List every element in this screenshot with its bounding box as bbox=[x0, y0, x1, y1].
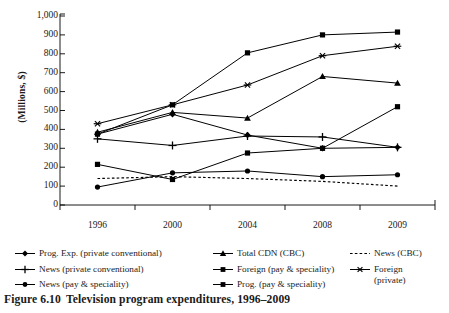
legend-entry[interactable]: News (pay & speciality) bbox=[14, 279, 129, 293]
series-line bbox=[94, 132, 402, 151]
x-tick-label: 2004 bbox=[218, 220, 278, 230]
legend-swatch-icon bbox=[14, 279, 36, 290]
legend-swatch-icon bbox=[349, 264, 371, 275]
legend-label: Prog. (pay & speciality) bbox=[237, 279, 325, 290]
chart-svg bbox=[0, 0, 449, 240]
legend-swatch-icon bbox=[14, 248, 36, 259]
chart-plot-area: (Millions, $) 1,000900800700600500400300… bbox=[0, 0, 449, 240]
legend-entry[interactable]: News (private conventional) bbox=[14, 264, 144, 278]
legend-label: Foreign (private) bbox=[374, 264, 406, 286]
legend-label: Total CDN (CBC) bbox=[237, 248, 304, 259]
series-line bbox=[94, 44, 402, 127]
legend-entry[interactable]: Total CDN (CBC) bbox=[212, 248, 304, 262]
legend-entry[interactable]: Foreign (private) bbox=[349, 264, 406, 278]
legend-label: Prog. Exp. (private conventional) bbox=[39, 248, 162, 259]
x-tick-label: 2009 bbox=[368, 220, 428, 230]
legend-marker-icon bbox=[14, 264, 36, 275]
x-tick-label: 2008 bbox=[293, 220, 353, 230]
legend-entry[interactable]: Foreign (pay & speciality) bbox=[212, 264, 334, 278]
x-tick-label: 2000 bbox=[143, 220, 203, 230]
chart-legend: Prog. Exp. (private conventional)News (p… bbox=[14, 248, 439, 294]
legend-marker-icon bbox=[349, 264, 371, 275]
series-line bbox=[94, 73, 401, 135]
x-axis-tick-labels: 19962000200420082009 bbox=[0, 214, 449, 234]
figure-container: (Millions, $) 1,000900800700600500400300… bbox=[0, 0, 449, 313]
legend-swatch-icon bbox=[212, 264, 234, 275]
x-axis-ticks bbox=[60, 205, 435, 210]
legend-label: News (private conventional) bbox=[39, 264, 144, 275]
caption-number: Figure 6.10 bbox=[4, 293, 61, 306]
legend-label: Foreign (pay & speciality) bbox=[237, 264, 334, 275]
legend-swatch-icon bbox=[14, 264, 36, 275]
legend-marker-icon bbox=[212, 264, 234, 275]
legend-label: News (pay & speciality) bbox=[39, 279, 129, 290]
chart-axes bbox=[60, 14, 435, 205]
legend-marker-icon bbox=[14, 279, 36, 290]
legend-marker-icon bbox=[212, 248, 234, 259]
legend-marker-icon bbox=[212, 279, 234, 290]
legend-swatch-icon bbox=[212, 248, 234, 259]
legend-label: News (CBC) bbox=[374, 248, 422, 259]
figure-caption: Figure 6.10Television program expenditur… bbox=[4, 293, 444, 306]
caption-text: Television program expenditures, 1996–20… bbox=[66, 293, 290, 306]
legend-swatch-icon bbox=[349, 248, 371, 259]
legend-entry[interactable]: News (CBC) bbox=[349, 248, 422, 262]
legend-marker-icon bbox=[14, 248, 36, 259]
legend-entry[interactable]: Prog. (pay & speciality) bbox=[212, 279, 325, 293]
x-tick-label: 1996 bbox=[68, 220, 128, 230]
legend-swatch-icon bbox=[212, 279, 234, 290]
y-axis-ticks bbox=[60, 16, 65, 205]
legend-marker-icon bbox=[349, 248, 371, 259]
legend-entry[interactable]: Prog. Exp. (private conventional) bbox=[14, 248, 162, 262]
